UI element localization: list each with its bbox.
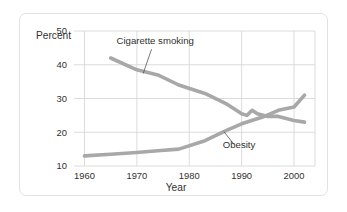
series-label: Cigarette smoking <box>117 35 194 46</box>
y-axis-tick-labels: 1020304050 <box>57 25 67 171</box>
y-tick-label: 10 <box>57 160 67 171</box>
y-tick-label: 30 <box>57 93 67 104</box>
series-paths <box>84 58 304 156</box>
series-annotations: Cigarette smokingObesity <box>117 35 256 150</box>
y-tick-label: 20 <box>57 127 67 138</box>
line-chart: 1020304050 19601970198019902000 Cigarett… <box>20 14 329 197</box>
annotation-leader-line <box>143 49 151 73</box>
x-tick-label: 1960 <box>74 170 95 181</box>
x-tick-label: 1980 <box>179 170 200 181</box>
x-axis-tick-labels: 19601970198019902000 <box>74 170 304 181</box>
y-tick-label: 40 <box>57 59 67 70</box>
x-tick-label: 1990 <box>231 170 252 181</box>
x-tick-label: 1970 <box>126 170 147 181</box>
x-tick-label: 2000 <box>284 170 305 181</box>
x-axis-title: Year <box>166 182 187 193</box>
series-line-obesity <box>84 95 304 156</box>
figure-card: 1020304050 19601970198019902000 Cigarett… <box>19 13 328 196</box>
y-axis-title: Percent <box>36 30 71 41</box>
series-label: Obesity <box>223 139 256 150</box>
